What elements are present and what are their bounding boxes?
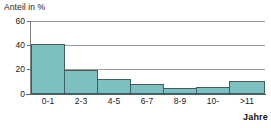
y-tick-label-40: 40	[1, 41, 25, 50]
y-tick-label-60: 60	[1, 17, 25, 26]
bar-10	[196, 87, 230, 94]
x-tick-label-3: 6-7	[130, 97, 164, 106]
y-tick-label-20: 20	[1, 65, 25, 74]
x-tick-label-1: 2-3	[64, 97, 98, 106]
x-tick-labels: 0-1 2-3 4-5 6-7 8-9 10- >11	[31, 97, 265, 111]
bar-0-1	[31, 44, 65, 94]
bar-4-5	[97, 79, 131, 94]
x-axis-line	[26, 94, 266, 95]
bar-chart: Anteil in % 60 40 20 0 0-1 2-3 4-5 6-7 8…	[0, 0, 271, 128]
x-axis-title: Jahre	[243, 112, 268, 122]
bar-2-3	[64, 70, 98, 94]
bar-gt-11	[229, 81, 265, 94]
x-tick-label-5: 10-	[196, 97, 230, 106]
x-tick-label-2: 4-5	[97, 97, 131, 106]
y-tick-labels: 60 40 20 0	[0, 0, 25, 128]
x-tick-label-0: 0-1	[31, 97, 65, 106]
bar-6-7	[130, 84, 164, 94]
y-tick-label-0: 0	[1, 90, 25, 99]
bar-8-9	[163, 88, 197, 94]
y-tick-mark-0	[27, 94, 31, 95]
x-tick-label-6: >11	[229, 97, 265, 106]
bar-series	[31, 21, 265, 94]
x-tick-label-4: 8-9	[163, 97, 197, 106]
